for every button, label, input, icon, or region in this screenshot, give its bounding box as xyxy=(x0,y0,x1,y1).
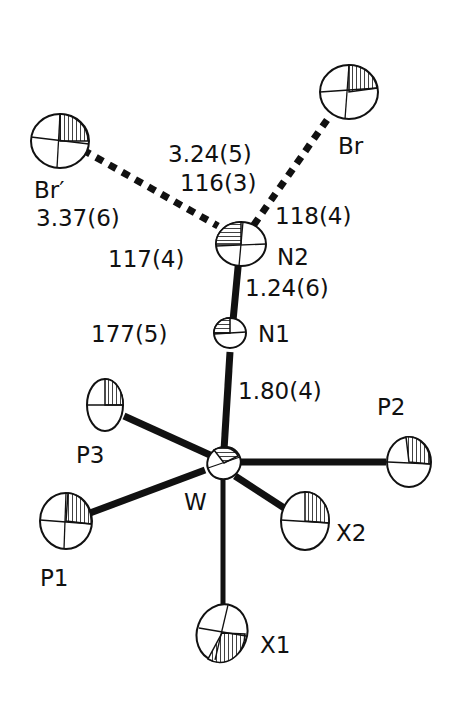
atom-x2 xyxy=(281,492,329,550)
label-x2: X2 xyxy=(336,520,366,546)
ortep-diagram: Br′ Br N2 N1 W P3 P2 P1 X2 X1 3.24(5) 11… xyxy=(0,0,450,720)
label-n1-n2-br-angle: 118(4) xyxy=(275,203,351,229)
atom-br-prime xyxy=(31,114,89,168)
atom-br xyxy=(320,65,378,119)
label-w-n1-n2-angle: 177(5) xyxy=(91,321,167,347)
atom-n2 xyxy=(216,222,266,266)
atom-p1 xyxy=(40,493,92,549)
label-n2-br-distance: 3.24(5) xyxy=(168,141,252,167)
label-n2: N2 xyxy=(277,244,309,270)
label-br: Br xyxy=(338,133,364,159)
label-w-n1-distance: 1.80(4) xyxy=(238,378,322,404)
label-n1-n2-distance: 1.24(6) xyxy=(245,275,329,301)
label-x1: X1 xyxy=(260,632,290,658)
label-p1: P1 xyxy=(40,565,69,591)
label-p2: P2 xyxy=(377,394,406,420)
atom-p2 xyxy=(387,437,431,487)
label-n1-n2-brprime-angle: 117(4) xyxy=(108,246,184,272)
atom-x1 xyxy=(189,597,256,669)
label-p3: P3 xyxy=(76,442,105,468)
atom-n1 xyxy=(214,318,246,348)
label-br-n2-brprime-angle: 116(3) xyxy=(180,170,256,196)
w-p3-bond xyxy=(124,416,210,455)
label-br-prime: Br′ xyxy=(34,177,64,203)
n1-w-bond xyxy=(224,352,230,450)
label-w: W xyxy=(184,489,207,515)
label-n1: N1 xyxy=(258,321,290,347)
label-n2-brprime-distance: 3.37(6) xyxy=(36,205,120,231)
atom-p3 xyxy=(87,379,123,431)
